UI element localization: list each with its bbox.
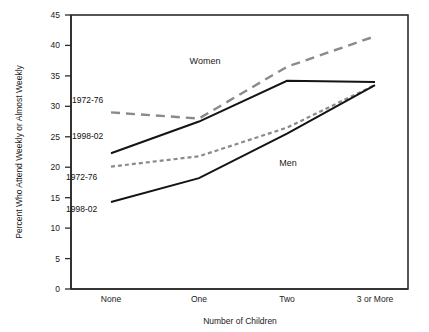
x-tick-label: Two	[279, 294, 295, 304]
series-label-men-1972: 1972-76	[66, 172, 97, 182]
y-tick-label: 35	[51, 71, 61, 81]
y-tick-label: 15	[51, 193, 61, 203]
y-tick-label: 45	[51, 10, 61, 20]
x-tick-label: None	[101, 294, 122, 304]
y-axis-ticks	[65, 15, 71, 289]
y-axis-tick-labels: 0 5 10 15 20 25 30 35 40 45	[51, 10, 61, 294]
series-label-women-1972: 1972-76	[72, 95, 103, 105]
x-axis-title: Number of Children	[203, 316, 277, 326]
plot-area-border	[71, 15, 408, 289]
y-tick-label: 40	[51, 40, 61, 50]
series-line-men-1972-76	[111, 85, 375, 167]
y-tick-label: 5	[55, 254, 60, 264]
y-tick-label: 10	[51, 223, 61, 233]
x-axis-tick-labels: None One Two 3 or More	[101, 294, 394, 304]
y-tick-label: 0	[55, 284, 60, 294]
x-tick-label: One	[191, 294, 207, 304]
annotation-women: Women	[190, 56, 221, 66]
line-chart-svg: 0 5 10 15 20 25 30 35 40 45 Percent Who …	[0, 0, 429, 332]
series-line-men-1998-02	[111, 85, 375, 202]
series-label-men-1998: 1998-02	[66, 204, 97, 214]
series-label-women-1998: 1998-02	[72, 131, 103, 141]
y-tick-label: 25	[51, 132, 61, 142]
y-axis-title: Percent Who Attend Weekly or Almost Week…	[14, 64, 24, 238]
x-tick-label: 3 or More	[357, 294, 394, 304]
y-tick-label: 20	[51, 162, 61, 172]
data-series-layer	[111, 36, 375, 202]
y-tick-label: 30	[51, 101, 61, 111]
chart-figure: 0 5 10 15 20 25 30 35 40 45 Percent Who …	[0, 0, 429, 332]
annotation-men: Men	[279, 158, 297, 168]
